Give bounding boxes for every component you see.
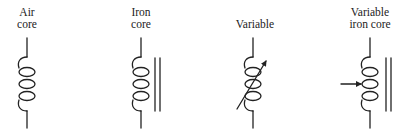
variable-iron-core-inductor-icon [341,38,391,128]
inductor-symbols-diagram [0,0,415,134]
air-core-inductor-icon [18,38,35,128]
iron-core-inductor-icon [132,38,160,128]
variable-inductor-icon [237,38,266,128]
